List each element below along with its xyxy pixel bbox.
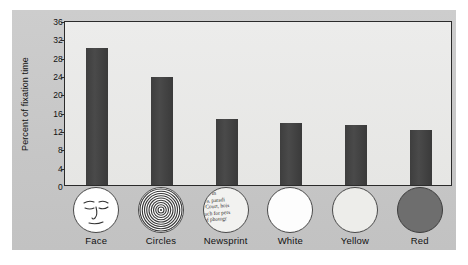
newsprint-text: nable mlova, paradire Court, hoismuch fo… xyxy=(203,187,249,230)
x-tick-label: Yellow xyxy=(323,235,387,246)
y-tick-label: 0 xyxy=(43,182,63,192)
yellow-disc-icon xyxy=(332,187,378,233)
newsprint-disc-icon: nable mlova, paradire Court, hoismuch fo… xyxy=(203,187,249,233)
bar-series xyxy=(65,22,451,185)
bar-circles xyxy=(151,77,173,185)
x-tick-label: Red xyxy=(388,235,452,246)
category-yellow: Yellow xyxy=(323,186,387,246)
y-tick-label: 8 xyxy=(43,145,63,155)
concentric-circles-disc-icon xyxy=(138,187,184,233)
x-tick-label: Circles xyxy=(129,235,193,246)
bar-red xyxy=(410,130,432,185)
x-tick-label: White xyxy=(258,235,322,246)
y-tick-label: 32 xyxy=(43,35,63,45)
face-disc-icon xyxy=(73,187,119,233)
x-tick-label: Newsprint xyxy=(194,235,258,246)
chart-figure: Percent of fixation time 048121620242832… xyxy=(0,0,468,265)
y-tick-label: 28 xyxy=(43,54,63,64)
red-disc-icon xyxy=(397,187,443,233)
bar-face xyxy=(86,48,108,186)
y-tick-label: 36 xyxy=(43,17,63,27)
bar-white xyxy=(280,123,302,185)
category-newsprint: nable mlova, paradire Court, hoismuch fo… xyxy=(194,186,258,246)
category-white: White xyxy=(258,186,322,246)
white-disc-icon xyxy=(267,187,313,233)
bar-newsprint xyxy=(216,119,238,185)
y-tick-label: 16 xyxy=(43,109,63,119)
plot-area: 04812162024283236 xyxy=(64,21,452,186)
y-tick-label: 20 xyxy=(43,90,63,100)
y-tick-label: 4 xyxy=(43,164,63,174)
category-circles: Circles xyxy=(129,186,193,246)
category-face: Face xyxy=(64,186,128,246)
y-axis-title-text: Percent of fixation time xyxy=(20,57,30,151)
y-axis-title: Percent of fixation time xyxy=(18,21,32,186)
y-tick-label: 24 xyxy=(43,72,63,82)
bar-yellow xyxy=(345,125,367,185)
category-red: Red xyxy=(388,186,452,246)
x-axis-categories: FaceCirclesnable mlova, paradire Court, … xyxy=(64,186,452,248)
x-tick-label: Face xyxy=(64,235,128,246)
y-tick-label: 12 xyxy=(43,127,63,137)
